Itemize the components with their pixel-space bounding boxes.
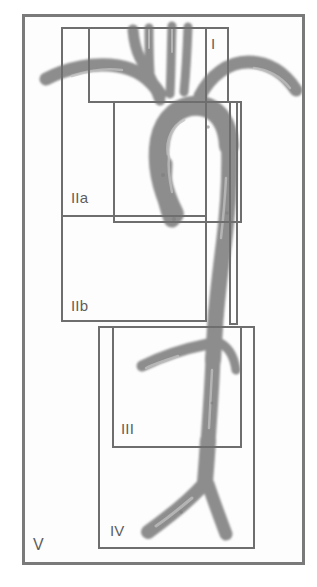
zone-label-iv: IV bbox=[110, 523, 125, 538]
zone-label-v: V bbox=[33, 537, 44, 553]
zone-label-iii: III bbox=[121, 421, 134, 436]
zone-box-descending-corridor[interactable] bbox=[229, 101, 238, 325]
zone-box-i[interactable] bbox=[88, 27, 229, 103]
angiogram-figure: V IIa IIb I IV III bbox=[0, 0, 317, 587]
zone-label-i: I bbox=[211, 36, 215, 51]
zone-label-iib: IIb bbox=[71, 298, 88, 313]
zone-label-iia: IIa bbox=[71, 190, 88, 205]
zone-box-ascending-aorta[interactable] bbox=[113, 101, 242, 223]
